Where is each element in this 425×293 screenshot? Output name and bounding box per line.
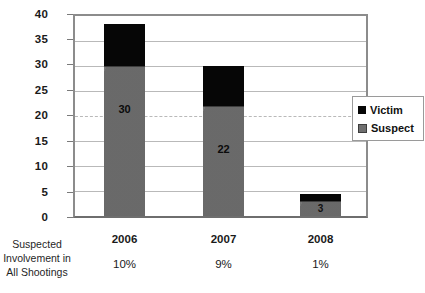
y-tick-label-25: 25	[4, 85, 48, 95]
bar-2007-value-label: 22	[203, 143, 244, 155]
x-axis-percent-2007: 9%	[181, 258, 266, 270]
y-tick-label-40: 40	[4, 9, 48, 19]
bar-2008-suspect-segment[interactable]: 3	[300, 201, 341, 216]
y-tick-label-5: 5	[4, 187, 48, 197]
x-axis-label-2008: 2008	[278, 233, 363, 245]
x-axis-percent-2008: 1%	[278, 258, 363, 270]
legend-swatch-victim-icon	[358, 106, 366, 114]
cut-off-footer-text	[0, 286, 425, 293]
legend-item-suspect[interactable]: Suspect	[358, 119, 419, 137]
legend-label-suspect: Suspect	[371, 122, 414, 134]
y-tick-label-35: 35	[4, 34, 48, 44]
bar-2006-victim-segment[interactable]	[104, 24, 145, 67]
bar-2006[interactable]: 30	[104, 24, 145, 217]
legend: Victim Suspect	[352, 96, 424, 141]
bar-2006-suspect-segment[interactable]: 30	[104, 66, 145, 216]
side-caption: Suspected Involvement in All Shootings	[2, 237, 72, 279]
x-axis-label-2006: 2006	[82, 233, 167, 245]
bar-2007[interactable]: 22	[203, 66, 244, 216]
plot-area: 30 22 3	[73, 14, 368, 218]
bar-2008[interactable]: 3	[300, 194, 341, 217]
y-tick-label-20: 20	[4, 110, 48, 120]
bar-2007-victim-segment[interactable]	[203, 66, 244, 106]
y-tick-label-15: 15	[4, 136, 48, 146]
chart-figure: 40 35 30 25 20 15 10 5 0 30	[0, 0, 425, 293]
bar-2007-suspect-segment[interactable]: 22	[203, 106, 244, 216]
bar-2008-value-label: 3	[300, 203, 341, 214]
x-axis-label-2007: 2007	[181, 233, 266, 245]
legend-swatch-suspect-icon	[358, 124, 367, 133]
bar-2006-value-label: 30	[104, 103, 145, 115]
y-tick-label-30: 30	[4, 59, 48, 69]
y-tick-label-0: 0	[4, 212, 48, 222]
side-caption-line-3: All Shootings	[2, 265, 72, 279]
legend-label-victim: Victim	[370, 104, 403, 116]
side-caption-line-2: Involvement in	[2, 251, 72, 265]
legend-item-victim[interactable]: Victim	[358, 101, 419, 119]
x-axis-percent-2006: 10%	[82, 258, 167, 270]
bar-2008-victim-segment[interactable]	[300, 194, 341, 202]
side-caption-line-1: Suspected	[2, 237, 72, 251]
y-tick-label-10: 10	[4, 161, 48, 171]
